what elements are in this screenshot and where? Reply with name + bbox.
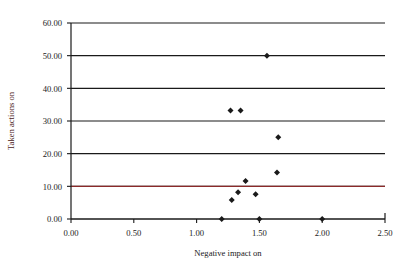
y-tick-label: 20.00: [43, 149, 62, 159]
scatter-chart: 0.000.501.001.502.002.50 0.0010.0020.003…: [0, 0, 409, 272]
x-tick-label: 1.50: [252, 228, 267, 238]
x-tick-label: 0.50: [126, 228, 141, 238]
y-tick-label: 10.00: [43, 182, 62, 192]
y-tick-label: 50.00: [43, 51, 62, 61]
chart-canvas: 0.000.501.001.502.002.50 0.0010.0020.003…: [0, 0, 409, 272]
y-tick-label: 40.00: [43, 84, 62, 94]
chart-background: [0, 0, 409, 272]
x-tick-label: 1.00: [189, 228, 204, 238]
y-axis-title: Taken actions on: [6, 91, 16, 150]
x-tick-label: 2.00: [315, 228, 330, 238]
x-axis-title: Negative impact on: [194, 248, 262, 258]
y-tick-label: 60.00: [43, 18, 62, 28]
y-tick-label: 30.00: [43, 116, 62, 126]
y-tick-label: 0.00: [47, 214, 62, 224]
x-tick-label: 2.50: [377, 228, 392, 238]
x-tick-label: 0.00: [63, 228, 78, 238]
